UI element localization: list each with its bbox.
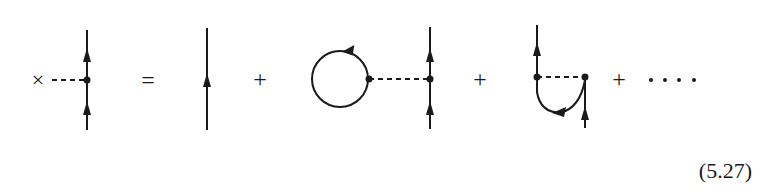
- arrow-up-icon: [581, 106, 589, 120]
- vertex-dot: [366, 76, 373, 83]
- plus-sign: +: [612, 66, 626, 92]
- arrow-up-icon: [83, 101, 91, 115]
- arrow-up-icon: [203, 73, 211, 87]
- term-2-tadpole: [312, 27, 434, 129]
- ellipsis-dot: [692, 78, 696, 82]
- term-3-exchange: [533, 25, 589, 128]
- plus-sign: +: [473, 66, 487, 92]
- ellipsis-dot: [663, 78, 667, 82]
- ellipsis-dot: [677, 78, 681, 82]
- arrow-up-icon: [83, 48, 91, 62]
- internal-propagator-curve: [537, 77, 585, 113]
- arrow-up-icon: [533, 42, 541, 56]
- plus-sign: +: [253, 66, 267, 92]
- arrow-up-icon: [426, 101, 434, 115]
- ellipsis-dot: [649, 78, 653, 82]
- equals-sign: =: [141, 67, 155, 93]
- vertex-dot: [84, 77, 91, 84]
- ellipsis: [649, 78, 696, 82]
- equation-number: (5.27): [699, 158, 752, 184]
- term-1-bare-propagator: [203, 28, 211, 130]
- lhs-diagram: ×: [32, 30, 91, 130]
- arrow-up-icon: [426, 48, 434, 62]
- loop-circle: [312, 51, 368, 107]
- vertex-dot: [582, 74, 589, 81]
- vertex-dot: [427, 76, 434, 83]
- feynman-equation: × = + + +: [0, 0, 780, 196]
- source-cross-symbol: ×: [32, 67, 44, 92]
- vertex-dot: [534, 74, 541, 81]
